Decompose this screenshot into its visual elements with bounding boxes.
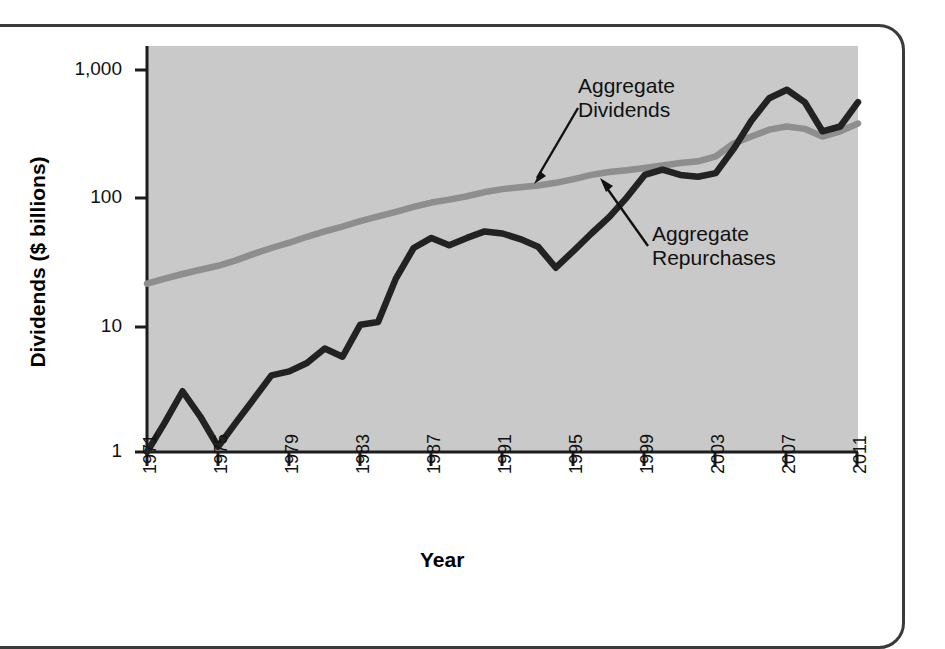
x-tick-label-1983: 1983	[353, 434, 374, 474]
x-tick-label-1995: 1995	[566, 434, 587, 474]
x-tick-label-1971: 1971	[140, 434, 161, 474]
x-tick-label-1979: 1979	[282, 434, 303, 474]
x-tick-label-1987: 1987	[424, 434, 445, 474]
annotation-label-aggregate-repurchases: Aggregate Repurchases	[652, 222, 776, 270]
x-tick-label-2011: 2011	[850, 435, 871, 474]
x-axis-title: Year	[420, 548, 464, 572]
annotation-label-aggregate-dividends: Aggregate Dividends	[578, 74, 675, 122]
annotation-dividends-line1: Aggregate	[578, 74, 675, 98]
x-tick-label-1991: 1991	[495, 434, 516, 474]
y-tick-marks	[135, 70, 147, 452]
x-tick-label-2007: 2007	[779, 434, 800, 474]
annotation-repurchases-line1: Aggregate	[652, 222, 776, 246]
y-tick-label-1000: 1,000	[10, 58, 122, 80]
annotation-dividends-line2: Dividends	[578, 98, 675, 122]
x-tick-label-1999: 1999	[637, 434, 658, 474]
annotation-repurchases-line2: Repurchases	[652, 246, 776, 270]
y-axis-title: Dividends ($ billions)	[26, 132, 50, 392]
y-tick-label-1: 1	[10, 440, 122, 462]
x-tick-label-1975: 1975	[211, 434, 232, 474]
x-tick-label-2003: 2003	[708, 434, 729, 474]
